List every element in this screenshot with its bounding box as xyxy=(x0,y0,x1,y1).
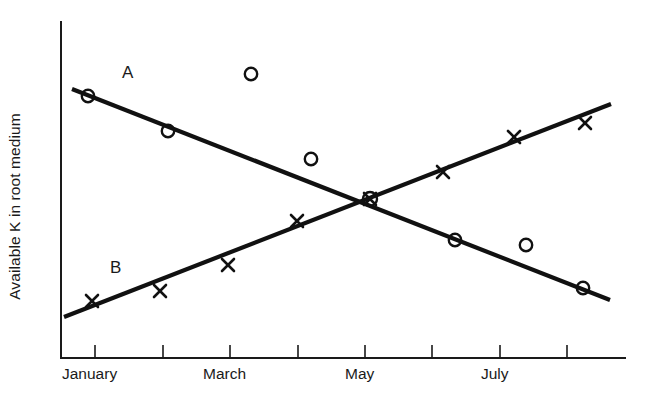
x-tick-label-january: January xyxy=(62,365,117,383)
chart-figure: Available K in root medium xyxy=(0,0,650,413)
x-tick-label-july: July xyxy=(481,365,509,383)
plot-area: A B xyxy=(0,0,650,413)
series-a-label: A xyxy=(122,63,134,82)
series-a-trend-line xyxy=(72,89,610,300)
x-axis-ticks xyxy=(95,345,567,358)
data-point xyxy=(579,117,591,129)
series-b-trend-line xyxy=(64,104,611,317)
data-point xyxy=(222,259,234,271)
data-point xyxy=(154,285,166,297)
x-tick-label-may: May xyxy=(345,365,374,383)
data-point xyxy=(520,239,532,251)
data-point xyxy=(245,68,257,80)
x-tick-label-march: March xyxy=(203,365,246,383)
data-point xyxy=(305,153,317,165)
series-b-label: B xyxy=(110,258,121,277)
